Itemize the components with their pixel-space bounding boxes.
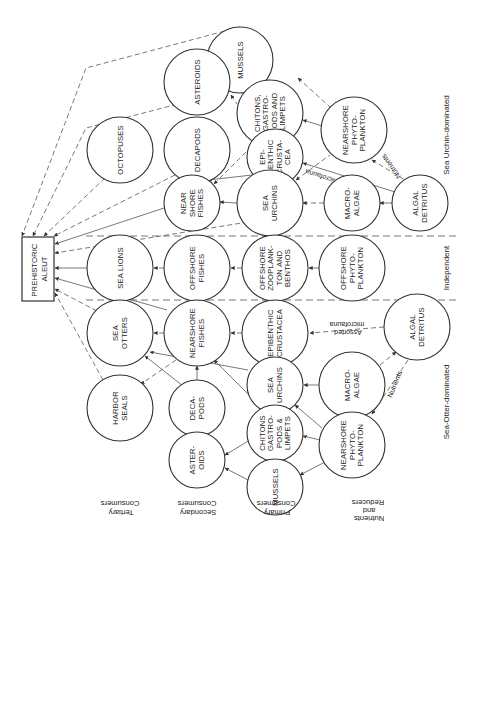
node-i-zoo: OFFSHOREZOOPLANK-TON ANDBENTHOS [242,235,308,301]
node-u-fishes: NEARSHOREFISHES [164,175,220,231]
svg-text:DECAPODS: DECAPODS [193,128,202,172]
level-label-secondary: Secondary Consumers [177,499,216,517]
node-u-octopuses: OCTOPUSES [87,117,153,183]
prehistoric-aleut-box: PREHISTORIC ALEUT [22,237,54,301]
node-o-decapods: DECA-PODS [169,380,225,436]
svg-text:DECA-PODS: DECA-PODS [188,395,205,420]
nodes: MUSSELSASTEROIDSCHITONS,GASTRO-PODS ANDL… [87,27,450,515]
node-o-macroalgae: MACRO-ALGAE [319,352,385,418]
svg-text:MACRO-ALGAE: MACRO-ALGAE [343,187,360,219]
section-label-independent: Independent [442,245,451,290]
svg-text:OFFSHOREZOOPLANK-TON ANDBENTHO: OFFSHOREZOOPLANK-TON ANDBENTHOS [258,245,292,291]
node-o-epibenthic: EPIBENTHICCRUSTACEA [242,300,308,366]
section-label-otter: Sea-Otter-dominated [442,365,451,440]
node-u-detritus: ALGALDETRITUS [392,175,448,231]
svg-text:ASTEROIDS: ASTEROIDS [193,59,202,105]
svg-text:SEA LIONS: SEA LIONS [116,247,125,288]
svg-text:CHITONS,GASTRO-PODS ANDLIMPETS: CHITONS,GASTRO-PODS ANDLIMPETS [253,92,287,133]
svg-text:CHITONSGASTRO-PODS &LIMPETS: CHITONSGASTRO-PODS &LIMPETS [258,415,292,451]
svg-text:EPIBENTHICCRUSTACEA: EPIBENTHICCRUSTACEA [266,308,283,357]
node-o-fishes: NEARSHOREFISHES [164,300,230,366]
level-label-nutrients: Nutrients and Reducers [352,498,385,523]
svg-text:OCTOPUSES: OCTOPUSES [116,125,125,174]
node-u-urchins: SEAURCHINS [237,170,303,236]
node-u-decapods: DECAPODS [164,117,230,183]
node-o-otters: SEAOTTERS [87,300,153,366]
node-i-phyto: OFFSHOREPHYTO-PLANKTON [319,235,385,301]
food-web-diagram: Associated microfauna Nutrients Assorted… [0,0,481,722]
edge-label-nutrients-urchin: Nutrients [380,153,402,180]
svg-text:NEARSHOREFISHES: NEARSHOREFISHES [179,189,205,218]
edge-label-nutrients-otter: Nutrients [386,369,403,398]
node-o-seals: HARBORSEALS [87,375,153,441]
node-u-asteroids: ASTEROIDS [164,49,230,115]
node-o-phyto: NEARSHOREPHYTO-PLANKTON [319,412,385,478]
level-label-primary: Primary Consumers [256,499,295,517]
level-label-tertiary: Tertiary Consumers [100,499,139,517]
node-i-fishes: OFFSHOREFISHES [164,235,230,301]
node-o-detritus: ALGALDETRITUS [384,294,450,360]
section-label-urchin: Sea Urchin-dominated [442,95,451,175]
node-u-macroalgae: MACRO-ALGAE [324,175,380,231]
svg-text:HARBORSEALS: HARBORSEALS [111,391,128,425]
node-o-asteroids: ASTER-OIDS [169,432,225,488]
node-o-chitons: CHITONSGASTRO-PODS &LIMPETS [247,405,303,461]
node-u-phyto: NEARSHOREPHYTO-PLANKTON [321,97,387,163]
edge-label-assorted-microfauna: Assorted microfauna [330,321,365,336]
svg-text:MUSSELS: MUSSELS [236,41,245,79]
svg-text:MACRO-ALGAE: MACRO-ALGAE [343,369,360,401]
node-i-sealions: SEA LIONS [87,235,153,301]
